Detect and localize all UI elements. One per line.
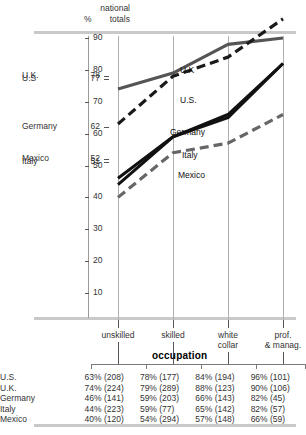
x-axis-stem [228,320,229,328]
table-cell: 59% (77) [140,404,195,415]
table-row: U.S.63% (208)78% (177)84% (194)96% (101) [0,372,306,383]
table-row-country: Italy [0,404,85,415]
table-row-country: Germany [0,393,85,404]
curve-label-mexico: Mexico [178,170,205,180]
curve-label-germany: Germany [170,127,205,137]
curve-label-italy: Italy [182,150,198,160]
occupation-axis-title: occupation [152,350,207,361]
table-cell: 59% (203) [140,393,195,404]
table-cell: 65% (142) [195,404,250,415]
x-axis-stem [118,320,119,328]
curve-label-us: U.S. [180,95,197,105]
table-cell: 66% (59) [251,414,306,425]
x-axis-bracket-stem [283,352,284,364]
x-axis-stem [173,320,174,328]
table-cell: 66% (143) [195,393,250,404]
table-cell: 54% (294) [140,414,195,425]
x-axis-stem [283,320,284,328]
table-cell: 44% (223) [85,404,140,415]
table-cell: 40% (120) [85,414,140,425]
table-row: Italy44% (223)59% (77)65% (142)82% (57) [0,404,306,415]
table-row-country: Mexico [0,414,85,425]
table-row-country: U.K. [0,383,85,394]
table-cell: 84% (194) [195,372,250,383]
national-totals-header: nationaltotals [54,3,130,24]
bracket-skilled [146,364,202,369]
occupation-data-table: U.S.63% (208)78% (177)84% (194)96% (101)… [0,372,306,425]
table-cell: 82% (57) [251,404,306,415]
table-cell: 88% (123) [195,383,250,394]
table-cell: 46% (141) [85,393,140,404]
table-cell: 79% (289) [140,383,195,394]
chart-series-lines [0,32,306,318]
national-totals-header-line: totals [54,14,130,25]
table-cell: 82% (45) [251,393,306,404]
curve-label-uk: U.K [180,65,194,75]
table-row: Germany46% (141)59% (203)66% (143)82% (4… [0,393,306,404]
table-row: U.K.74% (224)79% (289)88% (123)90% (106) [0,383,306,394]
table-cell: 74% (224) [85,383,140,394]
series-line-uk [118,38,283,89]
bracket-white-collar [201,364,257,369]
x-axis-label-prof-manag: prof.& manag. [248,330,306,350]
bracket-unskilled [91,364,147,369]
percent-axis-symbol: % [84,14,92,24]
table-cell: 90% (106) [251,383,306,394]
table-cell: 96% (101) [251,372,306,383]
table-cell: 78% (177) [140,372,195,383]
table-row: Mexico40% (120)54% (294)57% (148)66% (59… [0,414,306,425]
x-axis-bracket-stem [118,342,119,364]
series-line-us [118,19,283,124]
table-row-country: U.S. [0,372,85,383]
national-totals-header-line: national [54,3,130,14]
x-axis-bracket-stem [228,352,229,364]
line-chart-plot: 908070605040302010 U.K.78U.S77Germany62M… [0,32,306,318]
table-cell: 63% (208) [85,372,140,383]
bracket-prof-manag [256,364,306,369]
table-cell: 57% (148) [195,414,250,425]
